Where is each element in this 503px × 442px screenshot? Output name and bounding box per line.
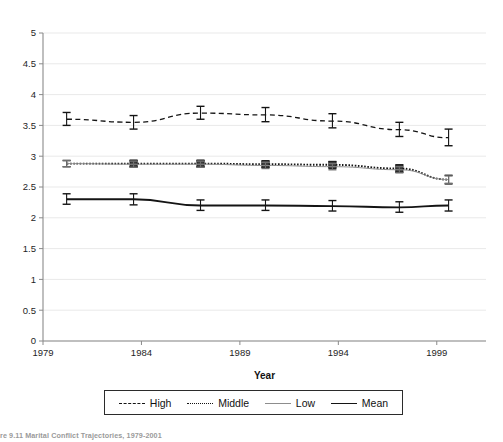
x-tick-label: 1989 bbox=[229, 347, 250, 358]
legend-item-mean[interactable]: Mean bbox=[331, 397, 388, 409]
figure-container: 00.511.522.533.544.55 197919841989199419… bbox=[0, 0, 503, 442]
legend-item-high[interactable]: High bbox=[119, 397, 172, 409]
series-high bbox=[63, 106, 453, 145]
series-middle bbox=[63, 160, 453, 184]
legend-line-high-icon bbox=[119, 398, 145, 408]
x-tick-label: 1984 bbox=[131, 347, 152, 358]
chart-plot-area: 00.511.522.533.544.55 197919841989199419… bbox=[0, 0, 503, 390]
chart-legend: High Middle Low Mean bbox=[104, 390, 403, 415]
y-tick-label: 1.5 bbox=[23, 243, 36, 254]
x-tick-label: 1994 bbox=[328, 347, 349, 358]
x-axis-ticks-group: 19791984198919941999 bbox=[32, 341, 447, 358]
legend-item-low[interactable]: Low bbox=[265, 397, 315, 409]
x-axis-title: Year bbox=[254, 370, 275, 381]
x-tick-label: 1979 bbox=[32, 347, 53, 358]
y-tick-label: 2.5 bbox=[23, 181, 36, 192]
y-tick-label: 0.5 bbox=[23, 305, 36, 316]
legend-line-low-icon bbox=[265, 398, 291, 408]
legend-line-mean-icon bbox=[331, 398, 357, 408]
legend-line-middle-icon bbox=[187, 398, 213, 408]
legend-label-mean: Mean bbox=[362, 397, 388, 409]
y-tick-label: 4 bbox=[31, 89, 36, 100]
y-tick-label: 4.5 bbox=[23, 58, 36, 69]
y-tick-label: 2 bbox=[31, 212, 36, 223]
error-bar bbox=[445, 129, 453, 146]
y-axis-ticks-group: 00.511.522.533.544.55 bbox=[23, 27, 43, 346]
series-line bbox=[67, 164, 449, 180]
line-chart-svg: 00.511.522.533.544.55 197919841989199419… bbox=[0, 0, 503, 390]
series-low bbox=[63, 161, 453, 184]
legend-label-middle: Middle bbox=[218, 397, 249, 409]
data-series-group bbox=[63, 106, 453, 212]
legend-label-low: Low bbox=[296, 397, 315, 409]
x-tick-label: 1999 bbox=[426, 347, 447, 358]
series-line bbox=[67, 164, 449, 180]
y-tick-label: 3 bbox=[31, 151, 36, 162]
y-tick-label: 0 bbox=[31, 335, 36, 346]
y-tick-label: 1 bbox=[31, 274, 36, 285]
figure-caption: re 9.11 Marital Conflict Trajectories, 1… bbox=[0, 431, 503, 440]
legend-item-middle[interactable]: Middle bbox=[187, 397, 249, 409]
y-tick-label: 5 bbox=[31, 27, 36, 38]
y-tick-label: 3.5 bbox=[23, 120, 36, 131]
gridlines-group bbox=[43, 33, 486, 341]
legend-label-high: High bbox=[150, 397, 172, 409]
series-line bbox=[67, 199, 449, 207]
series-mean bbox=[63, 194, 453, 212]
